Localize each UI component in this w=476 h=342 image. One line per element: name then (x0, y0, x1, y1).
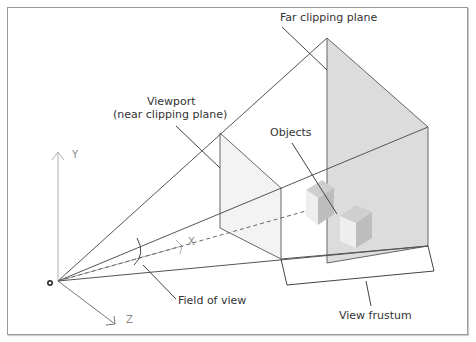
far-plane-leader (282, 27, 327, 70)
y-axis-label: Y (72, 149, 78, 160)
near-clipping-plane-label: (near clipping plane) (113, 108, 227, 121)
viewport-label: Viewport (147, 95, 196, 108)
x-axis-label: X (188, 236, 195, 247)
field-of-view-label: Field of view (178, 294, 246, 307)
frustum-diagram (0, 0, 476, 342)
fov-arc (134, 238, 141, 265)
z-axis-label: Z (126, 314, 133, 325)
axes (52, 152, 182, 325)
far-clipping-plane-label: Far clipping plane (280, 11, 377, 24)
z-axis (58, 281, 115, 324)
objects-label: Objects (270, 126, 312, 139)
eye-icon (47, 280, 53, 286)
frustum-leader (366, 281, 371, 306)
view-frustum-label: View frustum (339, 309, 412, 322)
viewport-leader (176, 126, 220, 168)
near-clipping-plane (220, 133, 281, 259)
